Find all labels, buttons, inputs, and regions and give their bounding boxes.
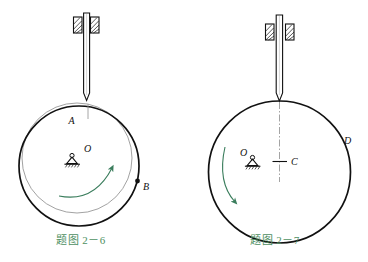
mechanics-figures-svg: A O B bbox=[0, 0, 368, 262]
support-hatch bbox=[65, 164, 79, 167]
vertical-rod-fig1 bbox=[84, 13, 90, 101]
rotation-arrow-fig2 bbox=[223, 147, 235, 202]
rim-point-b-dot bbox=[135, 179, 140, 184]
label-b-fig1: B bbox=[143, 181, 149, 192]
disk-current-position bbox=[19, 106, 139, 226]
vertical-rod-fig2 bbox=[276, 15, 282, 101]
caption-figure-2-6: 题图 2－6 bbox=[56, 231, 106, 247]
pin-support-fig1 bbox=[64, 153, 79, 167]
figure-2-7: O C D bbox=[209, 15, 353, 243]
support-triangle bbox=[247, 159, 258, 165]
label-c-fig2: C bbox=[291, 156, 298, 167]
guide-bushing-left-fig1 bbox=[74, 17, 83, 33]
label-d-fig2: D bbox=[343, 135, 352, 146]
disk-fig2 bbox=[209, 101, 351, 243]
figure-sheet: A O B bbox=[0, 0, 368, 262]
caption-figure-2-7: 题图 2－7 bbox=[250, 231, 300, 247]
guide-bushing-right-fig1 bbox=[91, 17, 100, 33]
pin-support-fig2 bbox=[245, 155, 260, 169]
support-hatch bbox=[246, 166, 260, 169]
label-o-fig2: O bbox=[240, 147, 247, 158]
figure-2-6: A O B bbox=[19, 13, 149, 226]
guide-bushing-right-fig2 bbox=[286, 24, 295, 40]
label-a-fig1: A bbox=[67, 115, 75, 126]
rotation-arrow-fig1 bbox=[59, 168, 112, 197]
guide-bushing-left-fig2 bbox=[266, 24, 275, 40]
label-o-fig1: O bbox=[84, 143, 91, 154]
support-triangle bbox=[67, 157, 78, 163]
